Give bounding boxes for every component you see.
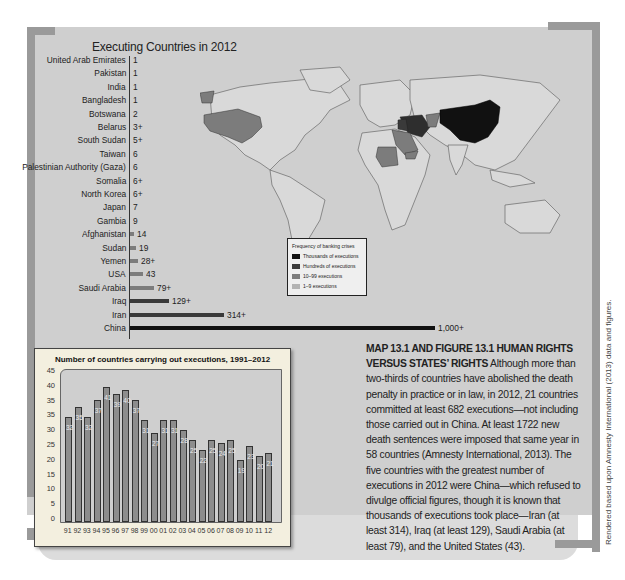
bar-label: Yemen: [100, 255, 126, 266]
bar-value-label: 14: [137, 228, 146, 239]
legend-label: Thousands of executions: [303, 253, 359, 259]
bar-value-label: 19: [139, 242, 148, 253]
bar-value-label: 28: [181, 437, 186, 444]
year-bar: 27: [151, 433, 158, 522]
bar-value-label: 6: [133, 148, 138, 159]
year-bar: 35: [75, 407, 82, 522]
map-africa: [358, 129, 430, 230]
year-bar: 25: [189, 440, 196, 522]
bar-label: Botswana: [89, 108, 126, 119]
bar-label: Bangladesh: [82, 94, 126, 105]
year-bar: 31: [141, 420, 148, 522]
y-tick-label: 20: [41, 455, 55, 464]
x-tick-label: 12: [262, 527, 274, 534]
y-tick-label: 10: [41, 484, 55, 493]
bar: [130, 313, 224, 317]
bar-label: Afghanistan: [82, 228, 126, 239]
map-india: [448, 145, 468, 175]
bar-value-label: 32: [85, 424, 90, 431]
bar-label: USA: [109, 268, 126, 279]
plot-area: 3235323741394037312731312825222524251923…: [60, 369, 282, 523]
bar-value-label: 79+: [157, 282, 171, 293]
bar-value-label: 21: [266, 460, 271, 467]
legend-swatch: [292, 284, 300, 289]
bar-label: South Sudan: [78, 134, 126, 145]
bar-label: Sudan: [102, 242, 126, 253]
year-bar: 23: [246, 446, 253, 522]
bar-value-label: 25: [209, 447, 214, 454]
bar-value-label: 39: [114, 401, 119, 408]
map-australia: [505, 200, 560, 233]
year-bar: 32: [65, 417, 72, 522]
bar-value-label: 1: [133, 81, 138, 92]
bar-value-label: 31: [142, 427, 147, 434]
caption-body: Although more than two-thirds of countri…: [366, 358, 581, 551]
year-bar: 20: [256, 456, 263, 522]
figure-caption: MAP 13.1 AND FIGURE 13.1 HUMAN RIGHTS VE…: [366, 341, 582, 554]
bar-value-label: 1: [133, 67, 138, 78]
y-tick-label: 5: [41, 499, 55, 508]
legend-item-hundreds: Hundreds of executions: [292, 263, 356, 269]
bar-value-label: 314+: [227, 309, 246, 320]
y-tick-label: 40: [41, 381, 55, 390]
bar-value-label: 22: [200, 457, 205, 464]
bar-value-label: 27: [152, 440, 157, 447]
bar-value-label: 5+: [133, 134, 143, 145]
bar-label: Belarus: [98, 121, 126, 132]
legend-swatch: [292, 254, 300, 259]
year-bar: 37: [132, 400, 139, 522]
bar-label: Somalia: [96, 175, 126, 186]
bar-value-label: 24: [219, 450, 224, 457]
year-bar: 37: [94, 400, 101, 522]
map-title: Executing Countries in 2012: [92, 40, 237, 54]
legend-label: 10–99 executions: [303, 273, 342, 279]
credit-line: Rendered based upon Amnesty Internationa…: [604, 300, 613, 546]
legend-swatch: [292, 264, 300, 269]
world-map: [200, 65, 580, 255]
bar-value-label: 31: [161, 427, 166, 434]
y-tick-label: 30: [41, 425, 55, 434]
bar-label: Japan: [103, 201, 126, 212]
bar: [130, 272, 143, 276]
bar: [130, 232, 134, 236]
map-legend: Frequency of banking crises Thousands of…: [287, 238, 367, 296]
bar-value-label: 1: [133, 54, 138, 65]
bar-value-label: 129+: [172, 295, 191, 306]
bar-value-label: 3+: [133, 121, 143, 132]
year-bar: 31: [170, 420, 177, 522]
y-tick-label: 15: [41, 470, 55, 479]
bar-value-label: 37: [95, 407, 100, 414]
year-bar: 22: [199, 450, 206, 522]
countries-executing-by-year-chart: Number of countries carrying out executi…: [34, 348, 291, 547]
legend-item-ones: 1–9 executions: [292, 283, 337, 289]
bar-value-label: 9: [133, 215, 138, 226]
bar-value-label: 43: [146, 268, 155, 279]
bar-label: Taiwan: [100, 148, 126, 159]
bar: [130, 326, 435, 330]
bar-value-label: 40: [123, 397, 128, 404]
legend-label: Hundreds of executions: [303, 263, 356, 269]
legend-swatch: [292, 274, 300, 279]
legend-item-tens: 10–99 executions: [292, 273, 342, 279]
bar-value-label: 6+: [133, 175, 143, 186]
year-bar: 21: [265, 453, 272, 522]
year-bar: 40: [122, 390, 129, 522]
bar-value-label: 32: [66, 424, 71, 431]
bar-value-label: 23: [247, 453, 252, 460]
bar: [130, 259, 138, 263]
bar-label: Saudi Arabia: [79, 282, 126, 293]
legend-title: Frequency of banking crises: [292, 243, 355, 249]
bar: [130, 286, 154, 290]
bar-value-label: 25: [228, 447, 233, 454]
bar-value-label: 2: [133, 108, 138, 119]
year-bar: 19: [237, 460, 244, 522]
bar-value-label: 7: [133, 201, 138, 212]
year-bar: 25: [227, 440, 234, 522]
bar-label: Iran: [112, 309, 126, 320]
year-bar: 39: [113, 394, 120, 522]
year-bar: 24: [218, 443, 225, 522]
bar-value-label: 19: [238, 467, 243, 474]
bar-value-label: 35: [76, 414, 81, 421]
bar-value-label: 37: [133, 407, 138, 414]
legend-item-thousands: Thousands of executions: [292, 253, 359, 259]
